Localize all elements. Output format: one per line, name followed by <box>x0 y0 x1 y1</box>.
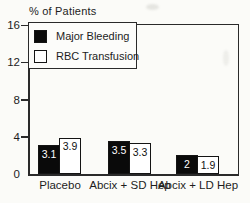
legend-swatch-rbc-transfusion <box>34 50 47 63</box>
legend-item-major-bleeding: Major Bleeding <box>34 26 136 46</box>
plot-area: Major BleedingRBC Transfusion 04812163.1… <box>28 24 239 176</box>
bar-value-label: 3.1 <box>39 148 59 160</box>
bar-value-label: 3.5 <box>109 144 129 156</box>
y-axis-tick-label: 16 <box>7 19 20 32</box>
category-label: Placebo <box>39 179 81 191</box>
bar-value-label: 3.3 <box>130 146 150 158</box>
bar: 2 <box>176 155 198 174</box>
y-axis-tick <box>21 25 28 27</box>
category-label: Abcix + LD Hep <box>158 179 238 191</box>
bar-chart-figure: % of Patients Major BleedingRBC Transfus… <box>0 0 250 203</box>
bar: 3.5 <box>108 141 130 174</box>
legend-swatch-major-bleeding <box>34 30 47 43</box>
bar: 1.9 <box>197 156 219 174</box>
bar-value-label: 1.9 <box>198 159 218 171</box>
y-axis-tick-label: 0 <box>14 168 20 181</box>
legend-label: RBC Transfusion <box>56 50 139 62</box>
legend: Major BleedingRBC Transfusion <box>28 22 137 69</box>
y-axis-tick <box>21 136 28 138</box>
scan-smudge <box>146 4 159 10</box>
legend-item-rbc-transfusion: RBC Transfusion <box>34 46 136 66</box>
bar-value-label: 2 <box>177 158 197 170</box>
y-axis-tick-label: 4 <box>14 131 20 144</box>
y-axis-tick <box>21 99 28 101</box>
y-axis-tick-label: 12 <box>7 56 20 69</box>
y-axis-tick <box>21 62 28 64</box>
bar-value-label: 3.9 <box>60 140 80 152</box>
bar: 3.3 <box>129 143 151 174</box>
bar: 3.9 <box>59 138 81 174</box>
legend-label: Major Bleeding <box>56 30 129 42</box>
y-axis-tick-label: 8 <box>14 94 20 107</box>
bar: 3.1 <box>38 145 60 174</box>
y-axis-title: % of Patients <box>29 5 96 17</box>
scan-smudge <box>223 50 229 66</box>
